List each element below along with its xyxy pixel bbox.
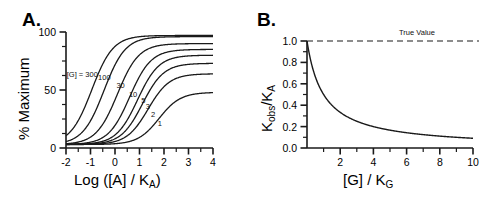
panel-b-ylabel-k1: K xyxy=(258,122,275,132)
true-value-label: True Value xyxy=(399,28,435,37)
panel-a-xlabel-tail: ) xyxy=(156,171,161,188)
panel-b-xtick-10: 10 xyxy=(467,156,479,168)
panel-a-xtick-3: 3 xyxy=(186,156,192,168)
panel-a-curve-300 xyxy=(66,35,213,135)
panel-a-y-tick-labels: 100 50 0 xyxy=(38,26,56,154)
panel-b-plot: True Value xyxy=(245,0,489,200)
panel-b-xtick-8: 8 xyxy=(437,156,443,168)
panel-b-y-tick-labels: 1.0 0.8 0.6 0.4 0.2 0.0 xyxy=(282,35,297,154)
panel-a-xtick--1: -1 xyxy=(86,156,95,168)
panel-b-x-tick-labels: 2 4 6 8 10 xyxy=(337,156,479,168)
panel-b-ytick-0.0: 0.0 xyxy=(282,142,297,154)
panel-a-xtick-0: 0 xyxy=(112,156,118,168)
panel-b-x-major-ticks xyxy=(340,148,473,155)
panel-a-ylabel: % Maximum xyxy=(16,57,31,140)
panel-b-ylabel-slash-k: /K xyxy=(258,92,275,106)
panel-a-svg: 100 50 0 -2 -1 0 1 2 3 4 [G] = 30010 xyxy=(0,0,245,200)
panel-b-ylabel: Kobs/KA xyxy=(259,85,274,132)
panel-a-curve-label-100: 100 xyxy=(98,73,111,82)
panel-b-ylabel-obs: obs xyxy=(266,106,277,122)
panel-a-xtick-1: 1 xyxy=(137,156,143,168)
panel-b-svg: True Value xyxy=(245,0,489,200)
panel-b-xtick-2: 2 xyxy=(337,156,343,168)
panel-b-ytick-0.8: 0.8 xyxy=(282,56,297,68)
panel-a-xtick-4: 4 xyxy=(210,156,216,168)
panel-a-curves xyxy=(66,35,213,144)
panel-a-curve-label-2: 2 xyxy=(151,110,155,119)
panel-b-ylabel-a: A xyxy=(266,85,277,92)
panel-a-curve-label-1: 1 xyxy=(158,119,162,128)
panel-b-ytick-0.4: 0.4 xyxy=(282,99,297,111)
panel-a-ytick-100: 100 xyxy=(38,26,56,38)
panel-a-xlabel: Log ([A] / KA) xyxy=(74,172,161,187)
panel-a-y-major-ticks xyxy=(60,32,67,148)
panel-b-xlabel: [G] / KG xyxy=(343,172,393,187)
panel-a-xtick--2: -2 xyxy=(61,156,70,168)
panel-b-xlabel-sub: G xyxy=(386,179,394,190)
panel-a-curve-label-30: 30 xyxy=(116,81,124,90)
panel-a-curve-label-3: 3 xyxy=(146,102,150,111)
figure-container: A. xyxy=(0,0,489,200)
panel-a: A. xyxy=(0,0,245,200)
panel-a-xtick-2: 2 xyxy=(161,156,167,168)
panel-b-ytick-0.2: 0.2 xyxy=(282,121,297,133)
panel-a-curve-labels: [G] = 30010030105321 xyxy=(67,70,162,128)
panel-a-curve-100 xyxy=(66,37,213,142)
panel-a-curve-30 xyxy=(66,44,213,144)
panel-b: B. True Value xyxy=(245,0,489,200)
panel-a-ytick-0: 0 xyxy=(50,142,56,154)
panel-a-ytick-50: 50 xyxy=(44,84,56,96)
panel-a-xlabel-sub: A xyxy=(149,179,156,190)
panel-b-xtick-6: 6 xyxy=(404,156,410,168)
panel-b-xtick-4: 4 xyxy=(370,156,376,168)
panel-a-x-major-ticks xyxy=(66,148,213,155)
panel-a-curve-label-10: 10 xyxy=(129,90,137,99)
panel-b-xlabel-main: [G] / K xyxy=(343,171,386,188)
panel-a-xlabel-main: Log ([A] / K xyxy=(74,171,149,188)
panel-b-ytick-1.0: 1.0 xyxy=(282,35,297,47)
panel-b-ytick-0.6: 0.6 xyxy=(282,78,297,90)
panel-a-plot: 100 50 0 -2 -1 0 1 2 3 4 [G] = 30010 xyxy=(0,0,245,200)
panel-a-x-tick-labels: -2 -1 0 1 2 3 4 xyxy=(61,156,216,168)
panel-a-legend-prefix: [G] = 300 xyxy=(67,70,98,79)
panel-b-axes xyxy=(307,41,473,148)
panel-b-decay-curve xyxy=(307,41,473,138)
